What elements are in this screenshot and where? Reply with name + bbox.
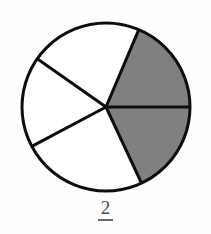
- fraction-caption: 2: [0, 198, 211, 221]
- fraction-bar: [98, 219, 113, 221]
- pie-chart: [0, 0, 211, 200]
- figure-page: 2: [0, 0, 211, 234]
- fraction-numerator: 2: [98, 198, 113, 218]
- pie-chart-svg: [0, 0, 211, 200]
- fraction: 2: [98, 198, 113, 221]
